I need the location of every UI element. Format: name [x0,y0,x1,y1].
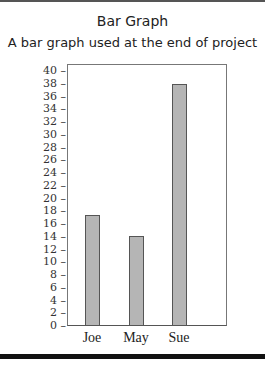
y-tick-label: 38 – [0,78,66,89]
y-tick-label: 10 – [0,256,66,267]
y-tick-label: 30 – [0,129,66,140]
y-tick-label: 40 – [0,65,66,76]
bar-may [129,236,144,325]
y-tick-label: 22 – [0,180,66,191]
bar-sue [172,84,187,325]
y-tick-label: 34 – [0,103,66,114]
y-tick-label: 16 – [0,218,66,229]
x-tick-label: Sue [159,330,199,346]
bottom-rule [0,354,265,359]
plot-area [67,64,227,326]
y-tick-label: 2 – [0,307,66,318]
y-tick-label: 0 – [0,320,66,331]
y-tick-label: 26 – [0,154,66,165]
y-tick-label: 4 – [0,295,66,306]
y-tick-label: 6 – [0,282,66,293]
bar-joe [85,215,100,325]
y-tick-label: 12 – [0,244,66,255]
y-tick-label: 36 – [0,91,66,102]
y-tick-label: 28 – [0,142,66,153]
y-axis: 0 –2 –4 –6 –8 –10 –12 –14 –16 –18 –20 –2… [0,0,66,370]
y-tick-label: 32 – [0,116,66,127]
y-tick-label: 18 – [0,205,66,216]
y-tick-label: 8 – [0,269,66,280]
x-tick-label: May [116,330,156,346]
y-tick-label: 20 – [0,193,66,204]
y-tick-label: 14 – [0,231,66,242]
y-tick-label: 24 – [0,167,66,178]
x-tick-label: Joe [72,330,112,346]
